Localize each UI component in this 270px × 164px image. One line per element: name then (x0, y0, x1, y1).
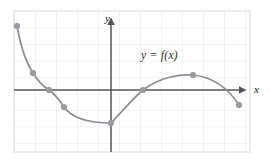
x-axis-label: x (254, 84, 259, 95)
y-axis-label: y (105, 13, 110, 24)
plot-canvas (0, 0, 270, 164)
data-point (190, 72, 196, 78)
data-point (46, 87, 52, 93)
data-point (30, 70, 36, 76)
data-point (108, 120, 114, 126)
data-point (140, 87, 146, 93)
data-point (236, 102, 242, 108)
function-graph-figure: y x y = f(x) (0, 0, 270, 164)
data-point (14, 23, 20, 29)
curve-equation-label: y = f(x) (141, 50, 178, 62)
data-point (61, 104, 67, 110)
